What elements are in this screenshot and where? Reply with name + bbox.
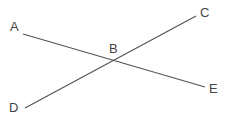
- label-d: D: [9, 100, 18, 115]
- label-c: C: [200, 5, 209, 20]
- label-e: E: [209, 81, 218, 96]
- label-a: A: [10, 19, 19, 34]
- line-dc: [25, 16, 196, 108]
- label-b: B: [109, 41, 118, 56]
- diagram-canvas: A B C D E: [0, 0, 226, 120]
